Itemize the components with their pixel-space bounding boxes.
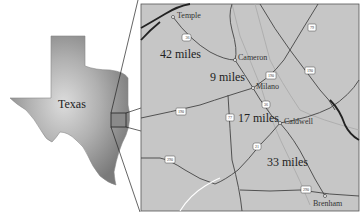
shield-36-a: 36 — [183, 35, 192, 40]
detail-map — [141, 4, 359, 211]
distance-milano-caldwell: 17 miles — [238, 111, 279, 126]
city-cameron: Cameron — [238, 53, 267, 62]
shield-21: 21 — [253, 144, 261, 149]
texas-label: Texas — [58, 97, 86, 112]
city-temple: Temple — [177, 11, 201, 20]
shield-190-a: 190 — [266, 73, 276, 78]
inset-box — [111, 113, 126, 127]
city-caldwell: Caldwell — [284, 117, 313, 126]
shield-190-c: 190 — [305, 68, 315, 73]
distance-caldwell-brenham: 33 miles — [267, 155, 308, 170]
distance-temple-cameron: 42 miles — [160, 47, 201, 62]
city-brenham: Brenham — [313, 199, 342, 208]
city-milano: Milano — [256, 82, 279, 91]
shield-290-b: 290 — [301, 187, 311, 192]
shield-36-b: 36 — [262, 102, 270, 107]
shield-290-a: 290 — [165, 157, 175, 162]
shield-77: 77 — [226, 115, 234, 120]
distance-cameron-milano: 9 miles — [210, 70, 245, 85]
shield-79: 79 — [308, 25, 316, 30]
shield-190-b: 190 — [176, 109, 186, 114]
